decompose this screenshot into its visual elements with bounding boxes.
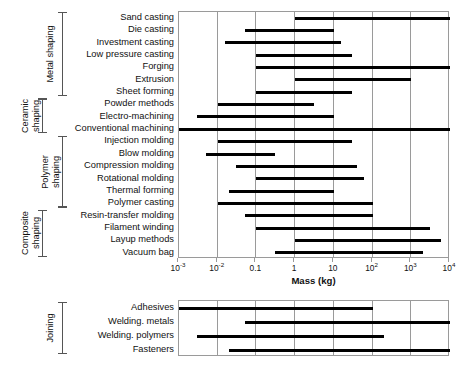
x-tick-label: 102 <box>365 263 378 273</box>
x-axis-title: Mass (kg) <box>291 275 335 286</box>
range-bar <box>256 227 429 230</box>
x-tick-label: 1 <box>292 263 297 273</box>
x-tick-label: 10 <box>328 263 337 273</box>
x-tick-label: 10-2 <box>209 263 224 273</box>
range-bar <box>229 349 450 352</box>
group-bracket <box>62 12 63 96</box>
category-label: Welding. polymers <box>98 328 174 343</box>
category-label: Welding. metals <box>108 314 174 329</box>
gridline-1e-2 <box>217 12 218 257</box>
group-label: Joining <box>45 313 55 342</box>
x-tick-label: 0.1 <box>250 263 262 273</box>
x-tick <box>371 258 372 262</box>
group-label: Ceramicshaping <box>20 99 41 133</box>
x-tick-label: 10-3 <box>171 263 186 273</box>
range-bar <box>236 165 357 168</box>
range-bar <box>275 251 423 254</box>
range-bar <box>256 91 352 94</box>
x-tick-label: 104 <box>443 263 456 273</box>
range-bar <box>179 128 450 131</box>
range-bar <box>245 214 373 217</box>
range-bar <box>206 153 275 156</box>
x-tick <box>409 258 410 262</box>
x-tick <box>216 258 217 262</box>
gridline-1e2 <box>372 12 373 257</box>
x-tick <box>177 258 178 262</box>
shaping-plot-panel <box>178 11 449 258</box>
joining-plot-panel <box>178 300 449 356</box>
group-label: Polymershaping <box>40 155 61 189</box>
range-bar <box>295 239 441 242</box>
gridline-1e3 <box>410 301 411 355</box>
gridline-1e0 <box>294 12 295 257</box>
x-tick <box>448 258 449 262</box>
x-tick <box>332 258 333 262</box>
category-label: Vacuum bag <box>122 245 174 260</box>
x-tick-label: 103 <box>404 263 417 273</box>
range-bar <box>245 321 450 324</box>
figure-root: 10-310-20.1110102103104 Mass (kg) Metal … <box>0 0 470 370</box>
group-bracket <box>62 136 63 208</box>
range-bar <box>229 190 333 193</box>
range-bar <box>218 103 314 106</box>
group-bracket <box>42 98 43 133</box>
range-bar <box>197 335 384 338</box>
group-bracket <box>42 210 43 257</box>
x-tick <box>254 258 255 262</box>
category-label: Fasteners <box>133 342 174 357</box>
range-bar <box>256 66 450 69</box>
range-bar <box>218 202 373 205</box>
range-bar <box>179 307 373 310</box>
group-label: Metal shaping <box>45 26 55 83</box>
x-tick <box>293 258 294 262</box>
group-label: Compositeshaping <box>20 211 41 255</box>
range-bar <box>295 17 450 20</box>
range-bar <box>225 41 341 44</box>
range-bar <box>256 54 352 57</box>
range-bar <box>245 29 334 32</box>
range-bar <box>218 140 353 143</box>
category-label: Adhesives <box>131 300 174 315</box>
range-bar <box>197 115 333 118</box>
group-bracket <box>62 302 63 354</box>
gridline-1e3 <box>410 12 411 257</box>
gridline-1e-1 <box>255 12 256 257</box>
range-bar <box>256 177 364 180</box>
gridline-1e1 <box>333 12 334 257</box>
range-bar <box>295 78 411 81</box>
